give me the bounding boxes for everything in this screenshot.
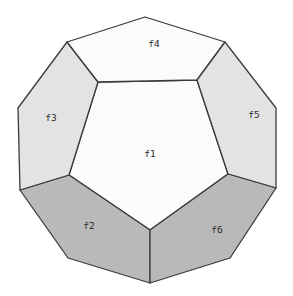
- face-label-f2: f2: [83, 220, 94, 231]
- face-label-f5: f5: [248, 109, 259, 120]
- face-f4: [67, 17, 225, 82]
- face-label-f6: f6: [211, 224, 223, 235]
- dodecahedron-diagram: f1f2f3f4f5f6: [0, 0, 293, 296]
- face-label-f4: f4: [148, 38, 160, 49]
- face-label-f1: f1: [144, 148, 156, 159]
- face-label-f3: f3: [45, 112, 56, 123]
